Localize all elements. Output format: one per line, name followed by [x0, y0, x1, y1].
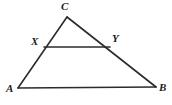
cropped-caption-remnant: · · · · · ·: [52, 96, 128, 104]
vertex-label-C: C: [61, 1, 68, 12]
vertex-label-X: X: [31, 36, 38, 47]
geometry-figure: C X Y A B · · · · · ·: [0, 0, 172, 105]
segment-side-AB: [18, 87, 156, 88]
vertex-label-B: B: [159, 82, 166, 93]
vertex-label-Y: Y: [112, 33, 119, 44]
segment-side-CB: [67, 17, 156, 87]
vertex-label-A: A: [6, 83, 13, 94]
segment-side-AC: [18, 17, 67, 88]
triangle-diagram-canvas: [0, 0, 172, 105]
